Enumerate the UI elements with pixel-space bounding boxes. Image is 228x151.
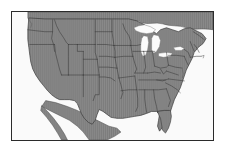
us-states-map[interactable] <box>12 12 213 140</box>
map-frame <box>11 11 214 141</box>
map-viewport[interactable] <box>12 12 213 140</box>
figure-canvas <box>0 0 228 151</box>
